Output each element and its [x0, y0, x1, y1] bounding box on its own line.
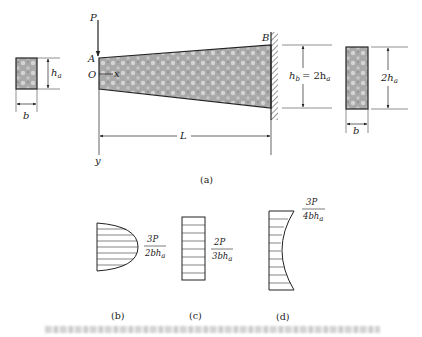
point-b-label: B	[261, 32, 269, 43]
c-denominator: 3bha	[212, 251, 233, 263]
beam-figure: ha b x y P A O B L hb= 2ha	[0, 0, 422, 337]
stress-distribution-b: 3P 2bha (b)	[97, 223, 166, 321]
part-b-caption: (b)	[111, 310, 125, 321]
left-width-label: b	[23, 110, 29, 121]
right-height-label: 2ha	[380, 72, 398, 85]
right-section-rect	[346, 47, 368, 109]
length-label: L	[179, 130, 187, 141]
left-section-rect	[16, 58, 37, 89]
y-axis-label: y	[94, 155, 101, 166]
b-denominator: 2bha	[144, 248, 166, 260]
hb-label: hb= 2ha	[289, 70, 331, 83]
fixed-end-height-dimension: hb= 2ha	[282, 45, 332, 108]
right-cross-section: 2ha b	[346, 47, 408, 136]
part-d-caption: (d)	[276, 311, 290, 322]
part-a-caption: (a)	[200, 174, 213, 185]
left-cross-section: ha b	[16, 58, 62, 121]
beam-body	[99, 45, 271, 108]
stress-distribution-c: 2P 3bha (c)	[182, 217, 233, 321]
c-numerator: 2P	[213, 237, 225, 247]
tapered-beam: x y P A O B L	[87, 12, 278, 166]
part-c-caption: (c)	[189, 310, 202, 321]
figure-caption-blurred	[45, 326, 380, 333]
right-width-label: b	[353, 125, 359, 136]
origin-label: O	[88, 69, 96, 80]
d-denominator: 4bha	[302, 211, 324, 223]
d-numerator: 3P	[306, 197, 317, 207]
fixed-wall-hatch	[271, 32, 278, 120]
stress-distribution-d: 3P 4bha (d)	[269, 197, 325, 322]
b-numerator: 3P	[147, 234, 158, 244]
point-a-label: A	[87, 53, 95, 64]
left-height-label: ha	[51, 67, 62, 80]
x-axis-label: x	[114, 68, 120, 79]
load-label: P	[89, 12, 97, 23]
